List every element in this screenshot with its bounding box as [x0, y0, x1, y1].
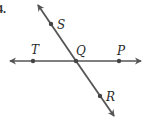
point-r — [98, 94, 102, 98]
label-p: P — [116, 44, 126, 58]
geometry-figure: 4. S T Q P R — [0, 0, 149, 120]
label-t: T — [31, 43, 40, 57]
label-s: S — [57, 18, 65, 32]
line-sr — [38, 5, 76, 61]
point-p — [117, 59, 121, 63]
point-q — [74, 59, 78, 63]
point-t — [31, 59, 35, 63]
point-s — [49, 22, 53, 26]
problem-number: 4. — [0, 2, 6, 16]
label-q: Q — [76, 44, 86, 58]
label-r: R — [105, 90, 115, 104]
line-sr-lower — [76, 61, 114, 116]
